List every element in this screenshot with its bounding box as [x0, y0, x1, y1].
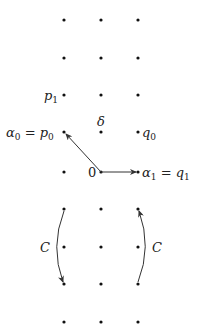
dot: [62, 320, 65, 323]
dot: [62, 245, 65, 248]
dot: [136, 18, 139, 21]
label-C-right: C: [152, 240, 162, 255]
dot: [99, 18, 102, 21]
label-delta: δ: [97, 114, 105, 129]
dot: [136, 245, 139, 248]
label-alpha1-eq-q1: α1 = q1: [142, 165, 190, 182]
dot: [99, 56, 102, 59]
label-p1: p1: [44, 88, 58, 105]
label-alpha0-eq-p0: α0 = p0: [6, 125, 54, 142]
label-q0: q0: [142, 125, 156, 142]
dot: [99, 245, 102, 248]
dot: [99, 320, 102, 323]
dot: [62, 207, 65, 210]
label-C-left: C: [40, 240, 50, 255]
grid-dots: [62, 18, 139, 323]
dot: [136, 56, 139, 59]
dot-p0: [62, 130, 65, 133]
dot-q0: [136, 130, 139, 133]
lattice-diagram: p1 α0 = p0 δ q0 0 α1 = q1 C C: [0, 0, 197, 333]
dot: [136, 93, 139, 96]
dot: [62, 282, 65, 285]
dot: [136, 320, 139, 323]
dot: [99, 207, 102, 210]
dot: [136, 282, 139, 285]
dot-delta: [99, 130, 102, 133]
dot-q1: [136, 170, 139, 173]
dot: [136, 207, 139, 210]
dot: [99, 282, 102, 285]
dot: [62, 18, 65, 21]
dot: [99, 93, 102, 96]
label-origin-zero: 0: [88, 165, 96, 180]
dot: [62, 170, 65, 173]
dot: [62, 56, 65, 59]
dot-p1: [62, 93, 65, 96]
